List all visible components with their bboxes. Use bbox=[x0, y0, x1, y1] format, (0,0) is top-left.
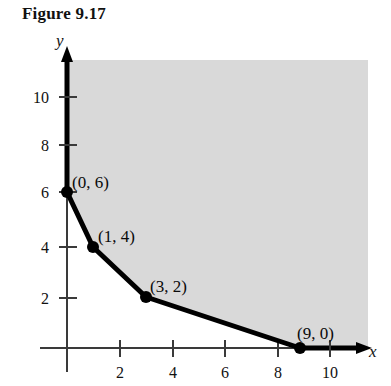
y-tick-label-2: 2 bbox=[41, 290, 49, 307]
x-tick-label-2: 2 bbox=[116, 364, 124, 381]
x-tick-label-4: 4 bbox=[169, 364, 177, 381]
coordinate-plot: y x 2 4 6 8 10 2 4 6 8 10 (0, 6) (1, 4) … bbox=[0, 0, 391, 386]
data-point-9-0 bbox=[294, 342, 306, 354]
point-annotation-3-2: (3, 2) bbox=[150, 277, 187, 296]
y-tick-label-10: 10 bbox=[33, 89, 49, 106]
x-tick-label-10: 10 bbox=[322, 364, 338, 381]
x-tick-label-6: 6 bbox=[221, 364, 229, 381]
y-axis-label: y bbox=[54, 31, 64, 50]
point-annotation-0-6: (0, 6) bbox=[72, 173, 109, 192]
shaded-feasible-region bbox=[67, 60, 368, 348]
y-tick-label-4: 4 bbox=[41, 239, 49, 256]
y-tick-label-6: 6 bbox=[41, 184, 49, 201]
x-tick-label-8: 8 bbox=[274, 364, 282, 381]
point-annotation-9-0: (9, 0) bbox=[297, 324, 334, 343]
x-axis-label: x bbox=[368, 342, 377, 361]
figure-container: Figure 9.17 y bbox=[0, 0, 391, 386]
point-annotation-1-4: (1, 4) bbox=[98, 227, 135, 246]
y-tick-label-8: 8 bbox=[41, 137, 49, 154]
